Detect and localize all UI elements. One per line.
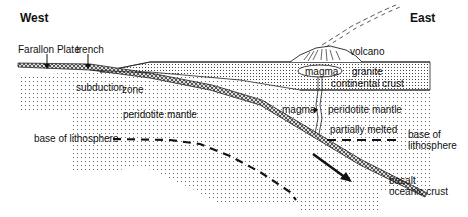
- label-volcano: volcano: [350, 46, 385, 57]
- label-base-of-lithosphere-right-2: lithosphere: [408, 140, 457, 151]
- label-zone: zone: [122, 84, 144, 95]
- label-subduction: subduction: [76, 82, 124, 93]
- label-partially-melted: partially melted: [330, 124, 397, 135]
- label-farallon-plate: Farallon Plate: [18, 44, 80, 55]
- heading-east: East: [410, 11, 435, 25]
- label-peridotite-mantle-left: peridotite mantle: [123, 109, 197, 120]
- label-trench: trench: [76, 44, 104, 55]
- label-basalt: basalt: [389, 175, 416, 186]
- heading-west: West: [20, 11, 48, 25]
- label-base-of-lithosphere-right-1: base of: [408, 129, 441, 140]
- label-peridotite-mantle-right: peridotite mantle: [328, 104, 402, 115]
- label-granite: granite: [352, 66, 383, 77]
- label-continental-crust: continental crust: [331, 78, 404, 89]
- label-magma-arrow: magma: [282, 104, 316, 115]
- label-base-of-lithosphere-left: base of lithosphere: [34, 133, 119, 144]
- eruption-plume: [322, 5, 400, 47]
- label-magma-chamber: magma: [305, 66, 339, 77]
- subduction-diagram: West East Farallon Plate trench volcano …: [0, 0, 468, 217]
- label-oceanic-crust: oceanic crust: [389, 186, 448, 197]
